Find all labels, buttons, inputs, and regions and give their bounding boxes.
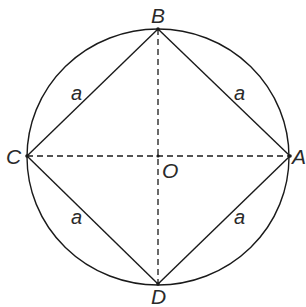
side-ba: [158, 29, 290, 156]
dot-b: [156, 27, 160, 31]
label-d: D: [151, 285, 166, 307]
label-o: O: [162, 159, 178, 182]
label-a: A: [290, 145, 306, 168]
side-label-cb: a: [71, 82, 82, 104]
side-label-da: a: [234, 206, 245, 228]
inscribed-square-diagram: B C A D O a a a a: [0, 0, 306, 307]
side-cd: [27, 156, 158, 284]
side-cb: [27, 29, 158, 156]
label-c: C: [6, 145, 22, 168]
dot-c: [25, 154, 29, 158]
dot-o: [156, 154, 159, 157]
label-b: B: [151, 4, 165, 27]
side-label-cd: a: [71, 206, 82, 228]
side-label-ba: a: [234, 82, 245, 104]
